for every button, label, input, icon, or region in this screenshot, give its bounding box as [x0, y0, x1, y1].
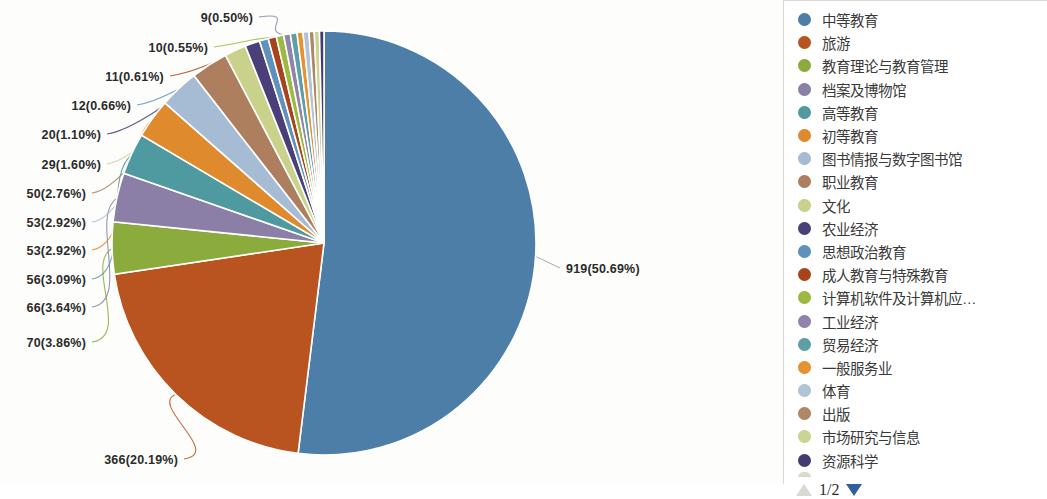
legend-swatch-icon — [798, 83, 811, 96]
legend-swatch-icon — [798, 472, 811, 477]
legend-item[interactable]: 教育理论与教育管理 — [792, 54, 1047, 77]
legend-item-label: 成人教育与特殊教育 — [822, 264, 948, 285]
slice-value-label: 366(20.19%) — [0, 453, 178, 467]
slice-value-label: 50(2.76%) — [0, 187, 86, 201]
legend-item[interactable]: 中等教育 — [792, 8, 1047, 31]
legend-swatch-icon — [798, 338, 811, 351]
legend-swatch-icon — [798, 106, 811, 119]
legend-item-label: 农业经济 — [822, 218, 878, 239]
legend-item-label: 贸易经济 — [822, 334, 878, 355]
legend-list: 中等教育旅游教育理论与教育管理档案及博物馆高等教育初等教育图书情报与数字图书馆职… — [792, 8, 1047, 478]
triangle-up-icon[interactable] — [796, 484, 812, 496]
legend-swatch-icon — [798, 13, 811, 26]
legend-item[interactable]: 思想政治教育 — [792, 240, 1047, 263]
slice-value-label: 70(3.86%) — [0, 336, 86, 350]
pie-slices — [112, 31, 536, 455]
legend-swatch-icon — [798, 430, 811, 443]
legend-swatch-icon — [798, 175, 811, 188]
legend-swatch-icon — [798, 454, 811, 467]
legend-swatch-icon — [798, 291, 811, 304]
legend-item-label: 职业教育 — [822, 171, 878, 192]
triangle-down-icon[interactable] — [846, 484, 862, 496]
legend-item-label: 文化 — [822, 195, 850, 216]
legend-item-label: 工业经济 — [822, 311, 878, 332]
leader-line — [535, 256, 561, 268]
legend-swatch-icon — [798, 315, 811, 328]
slice-value-label: 9(0.50%) — [0, 11, 253, 25]
legend-item-label: 教育理论与教育管理 — [822, 55, 948, 76]
legend-item-label: 图书情报与数字图书馆 — [822, 148, 962, 169]
legend-item-label: 市场研究与信息 — [822, 426, 920, 447]
slice-value-label: 66(3.64%) — [0, 301, 86, 315]
slice-value-label: 11(0.61%) — [0, 70, 164, 84]
slice-value-label: 12(0.66%) — [0, 99, 131, 113]
legend-swatch-icon — [798, 245, 811, 258]
legend-swatch-icon — [798, 268, 811, 281]
slice-value-label: 20(1.10%) — [0, 128, 101, 142]
slice-value-label: 29(1.60%) — [0, 158, 101, 172]
legend-swatch-icon — [798, 222, 811, 235]
legend-item-label: 体育 — [822, 380, 850, 401]
legend-item-label: 旅游 — [822, 32, 850, 53]
legend-pager: 1/2 — [796, 481, 1047, 499]
legend-item-label: 一般服务业 — [822, 357, 892, 378]
legend-swatch-icon — [798, 152, 811, 165]
legend-swatch-icon — [798, 407, 811, 420]
pie-slice[interactable] — [298, 31, 536, 455]
slice-value-label: 10(0.55%) — [0, 41, 208, 55]
slice-value-label: 53(2.92%) — [0, 244, 86, 258]
legend-item[interactable]: 体育 — [792, 379, 1047, 402]
legend-item[interactable]: 农业经济 — [792, 217, 1047, 240]
legend-item[interactable]: 旅游 — [792, 31, 1047, 54]
legend-item[interactable]: 出版 — [792, 402, 1047, 425]
legend-swatch-icon — [798, 36, 811, 49]
slice-value-label: 56(3.09%) — [0, 273, 86, 287]
legend-item-label: 高等教育 — [822, 102, 878, 123]
legend-item-label: 计算机软件及计算机应… — [822, 287, 977, 308]
legend-item[interactable]: 档案及博物馆 — [792, 78, 1047, 101]
legend-swatch-icon — [798, 361, 811, 374]
slice-value-label: 919(50.69%) — [566, 262, 640, 276]
legend-swatch-icon — [798, 129, 811, 142]
legend-item-label: 资源科学 — [822, 450, 878, 471]
legend-item-label: 出版 — [822, 403, 850, 424]
legend-item[interactable]: 文化 — [792, 194, 1047, 217]
legend-item[interactable]: 成人教育与特殊教育 — [792, 263, 1047, 286]
legend-swatch-icon — [798, 384, 811, 397]
legend-item[interactable]: 图书情报与数字图书馆 — [792, 147, 1047, 170]
legend-item-label: 中等教育 — [822, 9, 878, 30]
legend-item[interactable]: 初等教育 — [792, 124, 1047, 147]
legend-swatch-icon — [798, 199, 811, 212]
legend-item-label: 初等教育 — [822, 125, 878, 146]
slice-value-label: 53(2.92%) — [0, 216, 86, 230]
legend-item-partial[interactable] — [792, 472, 1047, 478]
legend-item-label: 档案及博物馆 — [822, 79, 906, 100]
legend-item-label: 思想政治教育 — [822, 241, 906, 262]
legend-page-indicator: 1/2 — [819, 481, 839, 499]
legend-item[interactable]: 职业教育 — [792, 170, 1047, 193]
legend-item[interactable]: 贸易经济 — [792, 333, 1047, 356]
legend-item[interactable]: 市场研究与信息 — [792, 425, 1047, 448]
chart-area: 919(50.69%) 366(20.19%) 70(3.86%) 66(3.6… — [0, 0, 778, 484]
leader-line — [259, 16, 287, 35]
legend-item[interactable]: 资源科学 — [792, 449, 1047, 472]
legend-swatch-icon — [798, 59, 811, 72]
legend-item[interactable]: 工业经济 — [792, 309, 1047, 332]
legend-panel: 中等教育旅游教育理论与教育管理档案及博物馆高等教育初等教育图书情报与数字图书馆职… — [783, 0, 1047, 484]
legend-item[interactable]: 计算机软件及计算机应… — [792, 286, 1047, 309]
legend-item[interactable]: 一般服务业 — [792, 356, 1047, 379]
pie-slice[interactable] — [114, 243, 324, 453]
legend-item[interactable]: 高等教育 — [792, 101, 1047, 124]
